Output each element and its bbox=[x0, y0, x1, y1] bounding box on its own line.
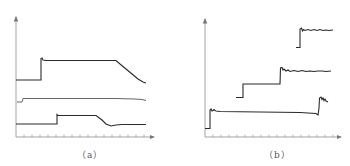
panel-b bbox=[205, 19, 341, 137]
panel-a-caption: （a） bbox=[77, 148, 103, 161]
figure-canvas bbox=[0, 0, 350, 166]
trace-step-3 bbox=[296, 28, 333, 48]
panel-a bbox=[16, 17, 154, 137]
trace-middle bbox=[17, 99, 146, 103]
panel-b-caption: （b） bbox=[264, 148, 291, 161]
trace-step-1 bbox=[205, 97, 328, 129]
trace-upper bbox=[16, 58, 146, 83]
trace-lower bbox=[16, 115, 146, 127]
trace-step-2 bbox=[236, 68, 331, 98]
